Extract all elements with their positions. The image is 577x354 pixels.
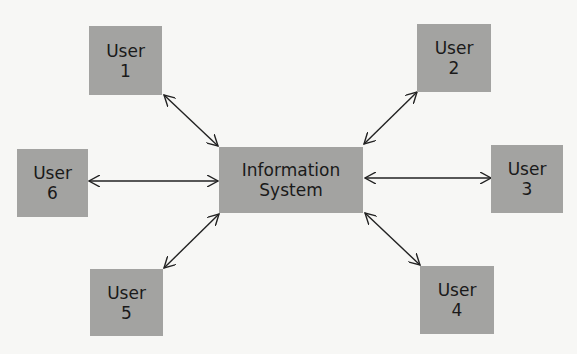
user-number: 1 [120, 61, 131, 81]
arrow-user5-system [164, 214, 219, 268]
user-label: User [107, 283, 146, 303]
user-3-box: User 3 [491, 145, 563, 213]
user-number: 4 [452, 300, 463, 320]
user-1-box: User 1 [89, 26, 162, 95]
arrow-user1-system [164, 95, 218, 146]
user-2-box: User 2 [417, 24, 491, 92]
user-4-box: User 4 [420, 266, 494, 334]
user-number: 3 [522, 179, 533, 199]
system-label-line1: Information [242, 160, 340, 180]
user-label: User [435, 38, 474, 58]
system-label-line2: System [259, 180, 322, 200]
user-label: User [438, 280, 477, 300]
user-number: 2 [449, 58, 460, 78]
user-number: 6 [47, 183, 58, 203]
arrow-user4-system [365, 213, 420, 265]
arrow-user2-system [364, 92, 417, 144]
user-number: 5 [121, 303, 132, 323]
user-6-box: User 6 [17, 149, 88, 217]
user-label: User [106, 41, 145, 61]
user-5-box: User 5 [90, 269, 163, 336]
information-system-box: Information System [219, 147, 363, 213]
user-label: User [508, 159, 547, 179]
user-label: User [33, 163, 72, 183]
